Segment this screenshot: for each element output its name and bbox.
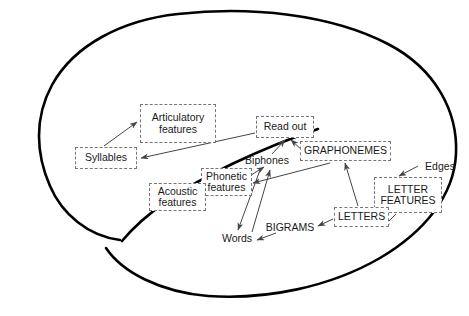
arrow-letters-to-bigrams [318,219,333,226]
node-phonetic-features[interactable]: Phonetic features [201,168,252,196]
node-bigrams[interactable]: BIGRAMS [264,221,316,235]
node-syllables[interactable]: Syllables [75,147,137,169]
node-edges[interactable]: Edges [418,160,462,174]
figure-canvas: Articulatory features Syllables Read out… [0,0,469,316]
node-letters[interactable]: LETTERS [334,207,389,227]
node-graphonemes[interactable]: GRAPHONEMES [300,141,391,161]
node-biphones[interactable]: Biphones [242,154,292,168]
arrow-syllables-to-articulatory [104,122,137,146]
node-articulatory-features[interactable]: Articulatory features [140,104,216,143]
node-read-out[interactable]: Read out [256,116,314,138]
node-acoustic-features[interactable]: Acoustic features [149,183,206,211]
arrow-edges-to-letterfeatures [399,166,418,176]
arrow-biphones-to-readout [272,140,285,154]
diagram-vector-layer [0,0,469,316]
node-words[interactable]: Words [218,232,256,246]
arrow-letters-to-graphonemes [345,163,358,206]
